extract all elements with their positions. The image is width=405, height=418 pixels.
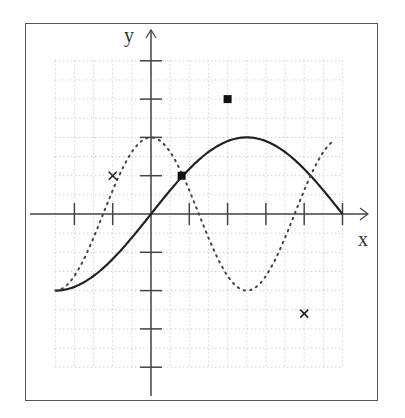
- square-marker: [178, 172, 186, 180]
- y-axis-label: y: [124, 24, 134, 47]
- markers: [109, 95, 309, 317]
- chart-plot: y x: [0, 0, 405, 418]
- x-axis-label: x: [358, 228, 368, 250]
- cross-marker: [300, 310, 308, 318]
- square-marker: [224, 95, 232, 103]
